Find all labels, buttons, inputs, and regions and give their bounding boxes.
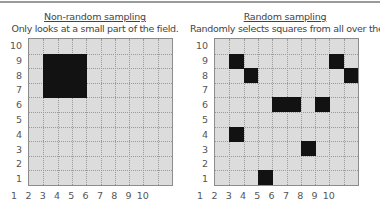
y-tick-label: 4: [192, 129, 208, 140]
sampled-square: [43, 54, 58, 69]
x-tick-label: 5: [64, 190, 78, 201]
y-tick-label: 1: [192, 173, 208, 184]
sampled-square: [301, 141, 316, 156]
grid-line: [29, 170, 172, 171]
y-tick-label: 4: [6, 129, 22, 140]
sampled-square: [58, 54, 73, 69]
x-tick-label: 6: [79, 190, 93, 201]
y-tick-label: 9: [6, 55, 22, 66]
non-random-field-grid: [28, 38, 173, 186]
grid-line: [215, 156, 358, 157]
sampled-square: [72, 68, 87, 83]
grid-line: [143, 39, 144, 185]
grid-line: [158, 39, 159, 185]
x-tick-label: 5: [250, 190, 264, 201]
panel-subtitle: Randomly selects squares from all over t…: [190, 23, 380, 34]
x-tick-label: 7: [93, 190, 107, 201]
y-tick-label: 3: [6, 144, 22, 155]
sampled-square: [72, 54, 87, 69]
sampled-square: [244, 68, 259, 83]
grid-line: [215, 170, 358, 171]
panel-subtitle: Only looks at a small part of the field.: [0, 23, 190, 34]
x-tick-label: 6: [265, 190, 279, 201]
y-tick-label: 2: [192, 158, 208, 169]
y-tick-label: 3: [192, 144, 208, 155]
sampled-square: [229, 127, 244, 142]
sampled-square: [272, 97, 287, 112]
y-tick-label: 8: [192, 70, 208, 81]
sampled-square: [72, 83, 87, 98]
sampled-square: [258, 170, 273, 185]
x-tick-label: 10: [136, 190, 150, 201]
y-tick-label: 10: [192, 40, 208, 51]
sampled-square: [315, 97, 330, 112]
y-tick-label: 10: [6, 40, 22, 51]
sampled-square: [329, 54, 344, 69]
grid-line: [29, 156, 172, 157]
grid-line: [129, 39, 130, 185]
x-tick-label: 1: [193, 190, 207, 201]
x-tick-label: 9: [308, 190, 322, 201]
x-tick-label: 8: [293, 190, 307, 201]
y-tick-label: 7: [192, 84, 208, 95]
sampled-square: [43, 68, 58, 83]
x-tick-label: 3: [222, 190, 236, 201]
x-tick-label: 2: [207, 190, 221, 201]
sampled-square: [229, 54, 244, 69]
x-tick-label: 7: [279, 190, 293, 201]
y-tick-label: 2: [6, 158, 22, 169]
grid-line: [115, 39, 116, 185]
x-tick-label: 8: [107, 190, 121, 201]
random-field-grid: [214, 38, 359, 186]
panel-title: Random sampling: [190, 11, 380, 22]
y-tick-label: 1: [6, 173, 22, 184]
sampled-square: [287, 97, 302, 112]
y-tick-label: 7: [6, 84, 22, 95]
x-tick-label: 9: [122, 190, 136, 201]
sampled-square: [58, 68, 73, 83]
x-tick-label: 4: [50, 190, 64, 201]
grid-line: [29, 127, 172, 128]
x-tick-label: 3: [36, 190, 50, 201]
grid-line: [29, 141, 172, 142]
y-tick-label: 5: [192, 114, 208, 125]
sampled-square: [344, 68, 359, 83]
y-tick-label: 8: [6, 70, 22, 81]
sampled-square: [58, 83, 73, 98]
x-tick-label: 1: [7, 190, 21, 201]
y-tick-label: 9: [192, 55, 208, 66]
x-tick-label: 4: [236, 190, 250, 201]
panel-title: Non-random sampling: [0, 11, 190, 22]
y-tick-label: 5: [6, 114, 22, 125]
grid-line: [29, 112, 172, 113]
y-tick-label: 6: [192, 99, 208, 110]
x-tick-label: 10: [322, 190, 336, 201]
y-tick-label: 6: [6, 99, 22, 110]
x-tick-label: 2: [21, 190, 35, 201]
sampled-square: [43, 83, 58, 98]
